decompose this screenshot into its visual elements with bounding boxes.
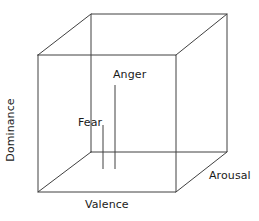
emotion-cube-figure: Dominance Valence Arousal Anger Fear xyxy=(0,0,259,221)
marker-label-anger: Anger xyxy=(113,69,146,81)
cube-edge-top-right xyxy=(176,14,227,55)
cube-wireframe xyxy=(0,0,259,221)
cube-front-face-edges xyxy=(38,55,176,192)
cube-edge-bottom-left xyxy=(38,152,91,192)
axis-label-valence: Valence xyxy=(85,199,129,211)
cube-back-face-edges xyxy=(91,14,227,152)
axis-label-arousal: Arousal xyxy=(209,170,251,182)
axis-label-dominance: Dominance xyxy=(5,98,17,161)
marker-label-fear: Fear xyxy=(78,117,102,129)
cube-edge-top-left xyxy=(38,14,91,55)
